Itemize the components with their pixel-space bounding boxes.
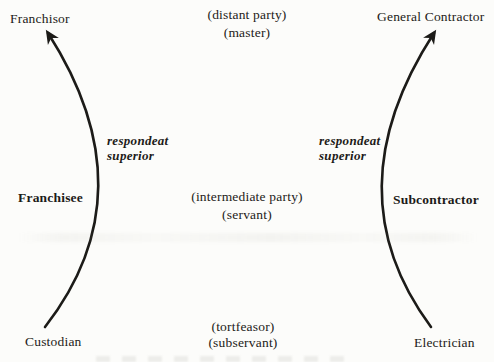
respondeat-line: respondeat xyxy=(107,133,169,148)
label-subcontractor: Subcontractor xyxy=(393,192,479,207)
center-role-distant-party: (distant party) (master) xyxy=(147,6,347,42)
subservant-line: (subservant) xyxy=(143,335,343,351)
label-custodian: Custodian xyxy=(25,334,82,349)
cropped-caption-remnant xyxy=(96,356,346,362)
label-franchisor: Franchisor xyxy=(10,11,70,26)
right-respondeat-arrow xyxy=(382,33,434,327)
superior-line: superior xyxy=(319,148,381,163)
diagram-canvas: Franchisor (distant party) (master) Gene… xyxy=(0,0,494,362)
master-line: (master) xyxy=(147,24,347,42)
respondeat-line: respondeat xyxy=(319,133,381,148)
arrows-layer xyxy=(0,0,494,362)
distant-party-line: (distant party) xyxy=(147,6,347,24)
superior-line: superior xyxy=(107,148,169,163)
servant-line: (servant) xyxy=(147,206,347,224)
label-electrician: Electrician xyxy=(414,335,475,350)
label-franchisee: Franchisee xyxy=(18,190,83,205)
left-respondeat-superior-label: respondeat superior xyxy=(107,133,169,163)
right-respondeat-superior-label: respondeat superior xyxy=(319,133,381,163)
tortfeasor-line: (tortfeasor) xyxy=(143,319,343,335)
center-role-tortfeasor: (tortfeasor) (subservant) xyxy=(143,319,343,351)
scan-artifact-band xyxy=(18,233,478,242)
left-respondeat-arrow xyxy=(45,33,98,327)
intermediate-party-line: (intermediate party) xyxy=(147,188,347,206)
center-role-intermediate-party: (intermediate party) (servant) xyxy=(147,188,347,224)
label-general-contractor: General Contractor xyxy=(377,9,484,24)
